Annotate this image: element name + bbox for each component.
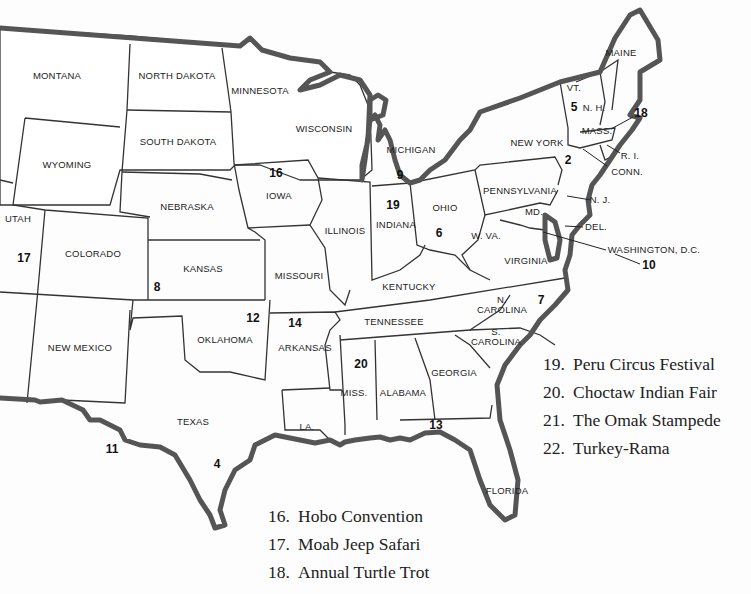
event-marker-17: 17 (17, 251, 30, 265)
state-label-new-york: NEW YORK (510, 138, 563, 148)
state-label-kansas: KANSAS (183, 264, 223, 274)
legend-item: 18.Annual Turtle Trot (268, 562, 429, 583)
us-festival-map: MONTANANORTH DAKOTAMINNESOTAWISCONSINSOU… (0, 0, 751, 594)
legend-item: 16.Hobo Convention (268, 506, 423, 527)
state-label-massachusetts: MASS. (582, 126, 613, 136)
event-marker-4: 4 (214, 457, 221, 471)
state-label-washington-dc: WASHINGTON, D.C. (608, 245, 700, 255)
state-label-alabama: ALABAMA (380, 388, 426, 398)
state-label-tennessee: TENNESSEE (364, 317, 423, 327)
state-label-utah: UTAH (5, 214, 31, 224)
state-label-virginia: VIRGINIA (504, 256, 547, 266)
legend-item: 19.Peru Circus Festival (543, 354, 715, 375)
state-label-iowa: IOWA (266, 191, 292, 201)
event-marker-2: 2 (565, 153, 572, 167)
state-label-delaware: DEL. (585, 222, 607, 232)
event-marker-12: 12 (246, 311, 259, 325)
state-label-rhode-island: R. I. (621, 151, 639, 161)
state-label-new-mexico: NEW MEXICO (48, 343, 112, 353)
state-label-mississippi: MISS. (341, 388, 368, 398)
state-label-michigan: MICHIGAN (386, 145, 435, 155)
state-label-maine: MAINE (605, 48, 636, 58)
state-label-oklahoma: OKLAHOMA (197, 335, 252, 345)
state-label-maryland: MD. (525, 207, 543, 217)
state-label-indiana: INDIANA (376, 220, 416, 230)
map-outline (0, 0, 751, 594)
event-marker-7: 7 (538, 293, 545, 307)
event-marker-20: 20 (354, 357, 367, 371)
state-label-minnesota: MINNESOTA (231, 86, 289, 96)
legend-item: 21.The Omak Stampede (543, 410, 721, 431)
state-label-florida: FLORIDA (486, 486, 529, 496)
state-label-pennsylvania: PENNSYLVANIA (483, 186, 557, 196)
state-label-nebraska: NEBRASKA (160, 202, 213, 212)
event-marker-13: 13 (429, 418, 442, 432)
state-label-new-hampshire: N. H. (583, 103, 606, 113)
event-marker-10: 10 (642, 258, 655, 272)
state-label-wyoming: WYOMING (43, 160, 92, 170)
state-label-new-jersey: N. J. (590, 195, 611, 205)
state-label-north-carolina: N.CAROLINA (477, 295, 527, 315)
event-marker-8: 8 (154, 280, 161, 294)
state-label-south-dakota: SOUTH DAKOTA (140, 137, 217, 147)
state-label-vermont: VT. (567, 83, 581, 93)
state-label-texas: TEXAS (177, 417, 209, 427)
event-marker-9: 9 (397, 168, 404, 182)
state-label-georgia: GEORGIA (431, 368, 477, 378)
state-label-missouri: MISSOURI (275, 271, 324, 281)
state-label-ohio: OHIO (432, 203, 457, 213)
state-label-connecticut: CONN. (611, 167, 643, 177)
state-label-west-virginia: W. VA. (471, 231, 501, 241)
state-label-south-carolina: S.CAROLINA (471, 327, 521, 347)
state-label-colorado: COLORADO (65, 249, 121, 259)
state-label-arkansas: ARKANSAS (278, 343, 331, 353)
event-marker-6: 6 (436, 226, 443, 240)
legend-item: 20.Choctaw Indian Fair (543, 382, 717, 403)
state-label-louisiana: LA. (300, 422, 315, 432)
state-label-wisconsin: WISCONSIN (296, 124, 353, 134)
state-label-north-dakota: NORTH DAKOTA (139, 71, 216, 81)
legend-item: 17.Moab Jeep Safari (268, 534, 420, 555)
state-label-kentucky: KENTUCKY (382, 282, 435, 292)
event-marker-16: 16 (269, 166, 282, 180)
event-marker-5: 5 (571, 100, 578, 114)
state-label-montana: MONTANA (33, 71, 81, 81)
event-marker-11: 11 (106, 442, 119, 456)
event-marker-19: 19 (386, 198, 399, 212)
event-marker-18: 18 (634, 106, 647, 120)
state-label-illinois: ILLINOIS (325, 226, 366, 236)
legend-item: 22.Turkey-Rama (543, 438, 670, 459)
event-marker-14: 14 (288, 316, 301, 330)
